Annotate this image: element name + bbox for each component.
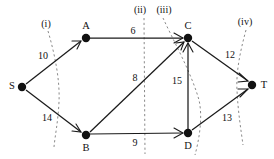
- edge-weight-B-C: 8: [133, 73, 138, 83]
- edge-C-T: [192, 41, 248, 81]
- edge-S-A: [26, 41, 81, 84]
- node-label-B: B: [82, 143, 89, 153]
- cut-curve-iv: [237, 30, 246, 145]
- edge-weight-S-A: 10: [38, 51, 48, 61]
- edge-weight-D-C: 15: [172, 76, 182, 86]
- edge-B-C: [90, 42, 184, 132]
- cut-label-iii: (iii): [157, 5, 172, 15]
- node-dot-T[interactable]: [248, 81, 256, 89]
- node-dot-S[interactable]: [18, 83, 26, 91]
- edge-weight-A-C: 6: [131, 26, 136, 36]
- node-label-A: A: [82, 21, 90, 31]
- cut-label-iv: (iv): [238, 17, 252, 27]
- cut-label-i: (i): [41, 19, 50, 29]
- node-label-S: S: [9, 81, 15, 91]
- graph-diagram: S A B C D T 10 14 6 8 9 15 12 13 (i) (ii…: [0, 0, 274, 159]
- node-dot-B[interactable]: [82, 131, 90, 139]
- edge-weight-D-T: 13: [222, 113, 232, 123]
- edges-group: [26, 33, 248, 138]
- cut-label-ii: (ii): [134, 5, 146, 15]
- edge-B-D: [90, 133, 183, 134]
- node-label-D: D: [184, 141, 192, 151]
- edge-weight-C-T: 12: [225, 50, 235, 60]
- node-dot-D[interactable]: [184, 129, 192, 137]
- edge-D-T: [192, 89, 248, 130]
- node-label-C: C: [184, 21, 191, 31]
- node-label-T: T: [261, 80, 267, 90]
- edge-weight-B-D: 9: [133, 138, 138, 148]
- cut-curve-i: [48, 31, 59, 147]
- edge-weight-S-B: 14: [42, 113, 52, 123]
- node-dot-C[interactable]: [184, 34, 192, 42]
- edge-S-B: [26, 90, 81, 132]
- node-dot-A[interactable]: [82, 34, 90, 42]
